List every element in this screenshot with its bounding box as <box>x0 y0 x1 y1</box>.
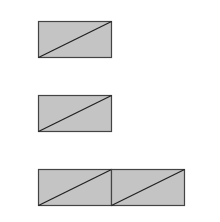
rectangle-3b <box>112 170 185 206</box>
rectangle-1 <box>39 22 112 58</box>
rectangle-3a <box>39 170 112 206</box>
rectangle-2 <box>39 96 112 132</box>
diagram-canvas <box>0 0 220 222</box>
